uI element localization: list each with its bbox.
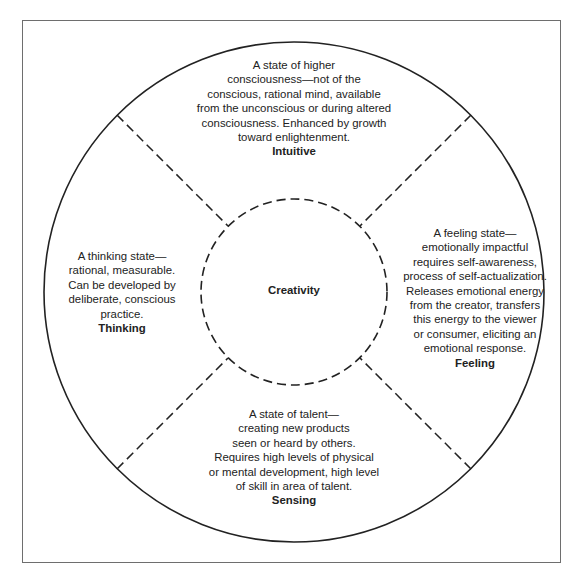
description-line: or mental development, high level: [194, 465, 394, 479]
description-line: or consumer, eliciting an: [390, 327, 560, 341]
description-line: from the unconscious or during altered: [174, 101, 414, 115]
quadrant-feeling: A feeling state— emotionally impactful r…: [390, 226, 560, 370]
quadrant-intuitive: A state of higher consciousness—not of t…: [174, 58, 414, 159]
quadrant-label-sensing: Sensing: [194, 493, 394, 507]
description-line: of skill in area of talent.: [194, 479, 394, 493]
description-line: consciousness. Enhanced by growth: [174, 116, 414, 130]
description-line: deliberate, conscious: [52, 292, 192, 306]
description-line: rational, measurable.: [52, 263, 192, 277]
description-line: emotional response.: [390, 341, 560, 355]
quadrant-label-thinking: Thinking: [52, 321, 192, 335]
description-line: consciousness—not of the: [174, 72, 414, 86]
description-line: conscious, rational mind, available: [174, 87, 414, 101]
description-line: emotionally impactful: [390, 240, 560, 254]
center-label-creativity: Creativity: [244, 284, 344, 296]
quadrant-sensing: A state of talent— creating new products…: [194, 407, 394, 508]
description-line: this energy to the viewer: [390, 312, 560, 326]
description-line: Requires high levels of physical: [194, 450, 394, 464]
description-line: A thinking state—: [52, 249, 192, 263]
description-line: toward enlightenment.: [174, 130, 414, 144]
description-line: requires self-awareness,: [390, 255, 560, 269]
description-line: A state of talent—: [194, 407, 394, 421]
description-line: Releases emotional energy: [390, 284, 560, 298]
quadrant-label-intuitive: Intuitive: [174, 144, 414, 158]
description-line: seen or heard by others.: [194, 436, 394, 450]
description-line: A feeling state—: [390, 226, 560, 240]
quadrant-label-feeling: Feeling: [390, 356, 560, 370]
description-line: process of self-actualization.: [390, 269, 560, 283]
quadrant-thinking: A thinking state— rational, measurable. …: [52, 249, 192, 335]
description-line: from the creator, transfers: [390, 298, 560, 312]
description-line: practice.: [52, 307, 192, 321]
description-line: creating new products: [194, 421, 394, 435]
description-line: Can be developed by: [52, 278, 192, 292]
description-line: A state of higher: [174, 58, 414, 72]
